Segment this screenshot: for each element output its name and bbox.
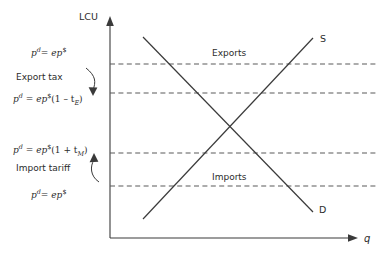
eq2-rhs: ep xyxy=(36,94,47,104)
price-line-group xyxy=(110,64,378,186)
export-tax-arrow xyxy=(86,68,97,96)
eq2-lhs-sup: d xyxy=(19,92,23,100)
eq4-rhs-sup: $ xyxy=(62,188,66,196)
equation-export-domestic-price: pd = ep$(1 – tE) xyxy=(13,94,83,104)
eq4-equals: = xyxy=(41,190,49,200)
supply-demand-diagram: LCU q S D Exports Imports Export tax Imp… xyxy=(0,0,383,259)
demand-curve-label: D xyxy=(319,204,326,215)
import-tariff-arrow xyxy=(90,153,99,182)
equation-export-world-price: pd= ep$ xyxy=(31,48,66,58)
eq3-lhs-sup: d xyxy=(19,143,23,151)
supply-curve xyxy=(143,38,313,219)
exports-label: Exports xyxy=(212,48,246,58)
supply-curve-label: S xyxy=(320,33,326,44)
export-tax-label: Export tax xyxy=(16,72,63,82)
eq2-tail-end: ) xyxy=(79,94,83,104)
eq3-tail: (1 + t xyxy=(51,145,77,155)
y-axis xyxy=(106,16,114,238)
equation-import-world-price: pd= ep$ xyxy=(31,190,66,200)
eq2-tail: (1 – t xyxy=(51,94,74,104)
equation-import-domestic-price: pd = ep$(1 + tM) xyxy=(13,145,88,155)
x-axis xyxy=(110,234,358,242)
eq3-tail-end: ) xyxy=(84,145,88,155)
eq3-rhs: ep xyxy=(36,145,47,155)
eq4-rhs: ep xyxy=(51,190,62,200)
eq3-equals: = xyxy=(26,145,34,155)
import-tariff-label: Import tariff xyxy=(16,163,70,173)
y-axis-label: LCU xyxy=(79,11,98,22)
imports-label: Imports xyxy=(212,172,247,182)
eq1-rhs: ep xyxy=(51,48,62,58)
eq1-rhs-sup: $ xyxy=(62,46,66,54)
x-axis-label: q xyxy=(364,233,370,244)
eq1-equals: = xyxy=(41,48,49,58)
eq2-equals: = xyxy=(26,94,34,104)
